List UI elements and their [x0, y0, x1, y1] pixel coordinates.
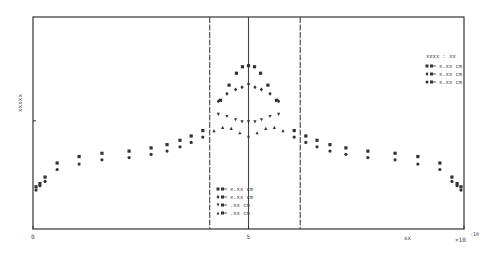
square-marker-icon	[217, 188, 220, 191]
triangle-marker-icon	[221, 126, 224, 129]
circle-marker-icon	[149, 153, 152, 156]
legend-upper-right: xxxx : xx x.xx cmx.xx cmx.xx cm	[426, 53, 463, 85]
inverted-triangle-marker-icon	[268, 115, 271, 118]
inverted-triangle-marker-icon	[225, 115, 228, 118]
circle-marker-icon	[315, 145, 318, 148]
diamond-marker-icon	[268, 92, 271, 96]
diamond-marker-icon	[253, 85, 256, 89]
scatter-chart: 05 xxxxx xx ×10 -10 xxxx : xx x.xx cmx.x…	[0, 0, 494, 253]
square-marker-icon	[43, 175, 46, 178]
square-marker-icon	[304, 134, 307, 137]
triangle-marker-icon	[212, 129, 215, 132]
circle-marker-icon	[178, 145, 181, 148]
inverted-triangle-marker-icon	[240, 120, 243, 123]
circle-marker-icon	[438, 168, 441, 171]
circle-marker-icon	[416, 163, 419, 166]
square-marker-icon	[259, 72, 262, 75]
square-marker-icon	[178, 139, 181, 142]
legend-entry-label: .xx cm	[230, 202, 251, 208]
x-axis-label: xx	[404, 234, 412, 241]
triangle-marker-icon	[247, 134, 250, 137]
y-axis-label: xxxxx	[16, 94, 23, 112]
square-marker-icon	[344, 146, 347, 149]
square-marker-icon	[241, 65, 244, 68]
diamond-marker-icon	[426, 72, 429, 76]
x-multiplier-exponent: -10	[470, 231, 479, 237]
triangle-marker-icon	[264, 127, 267, 130]
circle-marker-icon	[393, 158, 396, 161]
circle-marker-icon	[328, 150, 331, 153]
square-marker-icon	[149, 146, 152, 149]
square-marker-icon	[247, 64, 250, 67]
square-marker-icon	[450, 175, 453, 178]
square-marker-icon	[459, 185, 462, 188]
square-marker-icon	[315, 139, 318, 142]
legend-entry-label: x.xx cm	[439, 63, 463, 69]
inverted-triangle-marker-icon	[253, 120, 256, 123]
circle-marker-icon	[293, 135, 296, 138]
square-marker-icon	[293, 129, 296, 132]
circle-marker-icon	[34, 188, 37, 191]
square-marker-icon	[235, 72, 238, 75]
circle-marker-icon	[456, 184, 459, 187]
square-marker-icon	[100, 152, 103, 155]
square-marker-icon	[34, 185, 37, 188]
square-marker-icon	[228, 84, 231, 87]
inverted-triangle-marker-icon	[260, 118, 263, 121]
circle-marker-icon	[78, 163, 81, 166]
inverted-triangle-marker-icon	[234, 118, 237, 121]
circle-marker-icon	[43, 180, 46, 183]
square-marker-icon	[165, 143, 168, 146]
square-marker-icon	[366, 150, 369, 153]
square-marker-icon	[266, 84, 269, 87]
square-marker-icon	[56, 161, 59, 164]
legend-entry-label: x.xx cm	[439, 79, 463, 85]
circle-marker-icon	[304, 141, 307, 144]
circle-marker-icon	[165, 150, 168, 153]
square-marker-icon	[128, 150, 131, 153]
square-marker-icon	[416, 155, 419, 158]
square-marker-icon	[438, 161, 441, 164]
triangle-marker-icon	[273, 126, 276, 129]
triangle-marker-icon	[256, 131, 259, 134]
inverted-triangle-marker-icon	[277, 113, 280, 116]
axis-ticks: 05	[31, 121, 464, 240]
square-marker-icon	[201, 129, 204, 132]
legend-entry-label: x.xx cm	[439, 71, 463, 77]
square-marker-icon	[190, 134, 193, 137]
triangle-marker-icon	[281, 129, 284, 132]
circle-marker-icon	[344, 153, 347, 156]
triangle-marker-icon	[230, 127, 233, 130]
x-multiplier-base: ×10	[455, 236, 466, 243]
square-marker-icon	[253, 65, 256, 68]
circle-marker-icon	[128, 156, 131, 159]
diamond-marker-icon	[240, 85, 243, 89]
circle-marker-icon	[56, 168, 59, 171]
circle-marker-icon	[366, 156, 369, 159]
diamond-marker-icon	[217, 195, 220, 199]
square-marker-icon	[78, 155, 81, 158]
triangle-marker-icon	[217, 212, 220, 215]
circle-marker-icon	[100, 158, 103, 161]
inverted-triangle-marker-icon	[217, 113, 220, 116]
circle-marker-icon	[38, 184, 41, 187]
legend-upper-title: xxxx : xx	[426, 53, 456, 59]
circle-marker-icon	[426, 81, 429, 84]
legend-entry-label: x.xx cm	[230, 194, 254, 200]
circle-marker-icon	[190, 141, 193, 144]
inverted-triangle-marker-icon	[247, 120, 250, 123]
square-marker-icon	[328, 143, 331, 146]
diamond-marker-icon	[260, 87, 263, 91]
diamond-marker-icon	[225, 92, 228, 96]
x-tick-label: 0	[31, 233, 35, 240]
circle-marker-icon	[201, 135, 204, 138]
inverted-triangle-marker-icon	[217, 204, 220, 207]
circle-marker-icon	[450, 180, 453, 183]
diamond-marker-icon	[247, 82, 250, 86]
square-marker-icon	[393, 152, 396, 155]
triangle-marker-icon	[238, 131, 241, 134]
circle-marker-icon	[459, 188, 462, 191]
square-marker-icon	[426, 65, 429, 68]
x-tick-label: 5	[247, 233, 251, 240]
legend-entry-label: x.xx cm	[230, 186, 254, 192]
